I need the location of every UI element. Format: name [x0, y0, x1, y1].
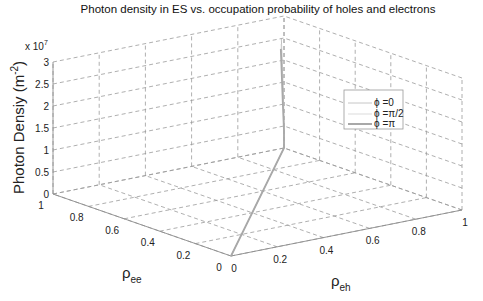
grid-line [160, 185, 391, 231]
grid-line [195, 198, 426, 244]
grid-line [124, 173, 355, 219]
z-axis-label: Photon Densiy (m-2) [9, 61, 27, 194]
x-tick-label: 0.6 [366, 235, 380, 246]
grid-line [53, 38, 284, 84]
grid-line [53, 16, 284, 62]
y-tick-label: 0.4 [141, 237, 155, 248]
z-tick-label: 3 [43, 57, 49, 68]
y-tick-label: 0 [216, 262, 222, 273]
grid-line [53, 148, 284, 194]
x-axis-line [231, 210, 462, 256]
z-tick-label: 2.5 [35, 79, 49, 90]
x-tick-label: 0.4 [319, 245, 333, 256]
grid-line [53, 82, 284, 128]
z-tick-label: 0 [43, 189, 49, 200]
z-tick-label: 1.5 [35, 123, 49, 134]
z-tick-label: 0.5 [35, 167, 49, 178]
z-tick-label: 1 [43, 145, 49, 156]
y-axis-label: ρee [122, 264, 142, 285]
y-tick-label: 1 [38, 200, 44, 211]
legend-label: ϕ =0 [374, 97, 394, 108]
series-line-2 [231, 49, 284, 256]
grid-line [53, 126, 284, 172]
data-series [231, 39, 284, 256]
x-axis-label: ρeh [331, 272, 351, 293]
y-tick-label: 0.2 [176, 250, 190, 261]
series-line-0 [231, 39, 284, 256]
x-tick-label: 0 [231, 263, 237, 274]
z-multiplier: x 107 [25, 39, 48, 52]
x-tick-label: 1 [462, 217, 468, 228]
grid-line [145, 176, 323, 238]
grid-lines [53, 16, 462, 256]
tick-labels: 00.20.40.60.8100.20.40.60.8100.511.522.5… [35, 57, 468, 274]
chart-title: Photon density in ES vs. occupation prob… [81, 3, 436, 15]
z-tick-label: 2 [43, 101, 49, 112]
x-tick-label: 0.2 [273, 254, 287, 265]
x-tick-label: 0.8 [412, 226, 426, 237]
legend: ϕ =0 ϕ =π/2 ϕ =π [344, 90, 404, 129]
grid-line [192, 166, 370, 228]
grid-line [53, 60, 284, 106]
grid-line [53, 104, 284, 150]
legend-label: ϕ =π [374, 118, 395, 129]
y-tick-label: 0.8 [70, 212, 84, 223]
grid-line [89, 160, 320, 206]
y-tick-label: 0.6 [105, 225, 119, 236]
chart-3d: 00.20.40.60.8100.20.40.60.8100.511.522.5… [0, 0, 483, 301]
